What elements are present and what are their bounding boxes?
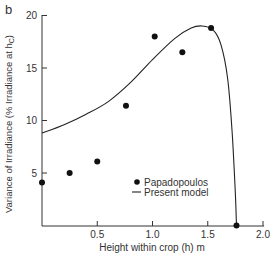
x-ticks: 0.51.01.52.0 — [90, 221, 270, 240]
y-ticks: 5101520 — [26, 10, 47, 179]
y-axis-label: Variance of Irradiance (% Irradiance at … — [3, 35, 15, 213]
legend-dot-icon — [134, 179, 140, 185]
data-point — [208, 25, 214, 31]
x-tick-label: 0.5 — [90, 229, 104, 240]
data-point — [179, 49, 185, 55]
legend-label-present-model: Present model — [144, 187, 208, 198]
data-point — [94, 158, 100, 164]
data-point — [233, 223, 239, 229]
x-axis-label: Height within crop (h) m — [99, 242, 205, 253]
x-tick-label: 1.0 — [146, 229, 160, 240]
data-point — [123, 103, 129, 109]
y-tick-label: 15 — [26, 63, 38, 74]
x-tick-label: 1.5 — [201, 229, 215, 240]
chart: b 5101520 0.51.01.52.0 Variance of Irrad… — [0, 0, 275, 255]
data-point — [39, 179, 45, 185]
papadopoulos-points — [39, 25, 239, 228]
y-tick-label: 20 — [26, 10, 38, 21]
legend: Papadopoulos Present model — [132, 177, 208, 198]
data-point — [152, 34, 158, 40]
y-tick-label: 5 — [31, 168, 37, 179]
x-tick-label: 2.0 — [256, 229, 270, 240]
data-point — [67, 170, 73, 176]
panel-label: b — [5, 2, 12, 17]
y-tick-label: 10 — [26, 115, 38, 126]
